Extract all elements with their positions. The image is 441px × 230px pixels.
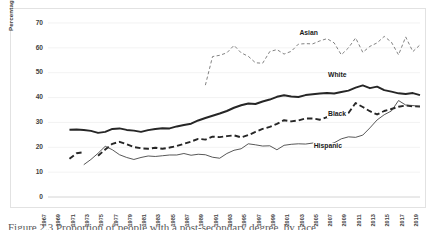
y-tick-label: 10 [21,169,43,176]
y-tick-label: 60 [21,45,43,52]
series-line-black [69,152,83,158]
figure-caption: Figure 2.3 Proportion of people with a p… [8,221,438,230]
gridlines [48,23,420,197]
chart-svg [48,23,420,197]
series-lines [69,36,420,164]
chart-frame: Percentage of relevant population 010203… [10,8,426,208]
y-tick-label: 20 [21,144,43,151]
series-label-hispanic: Hispanic [313,143,343,150]
y-tick-label: 40 [21,94,43,101]
series-line-black [98,103,420,156]
series-label-white: White [327,72,348,79]
series-line-asian [205,36,420,85]
y-tick-label: 30 [21,119,43,126]
y-tick-label: 0 [21,194,43,201]
y-tick-label: 50 [21,69,43,76]
figure-container: Percentage of relevant population 010203… [0,0,441,230]
y-tick-label: 70 [21,20,43,27]
y-axis-title: Percentage of relevant population [7,0,19,31]
series-label-asian: Asian [298,30,319,37]
series-label-black: Black [327,111,347,118]
plot-area [48,23,420,197]
